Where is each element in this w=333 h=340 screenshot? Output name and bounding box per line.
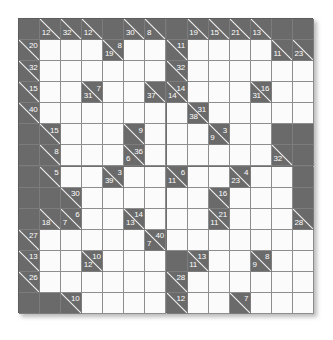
entry-cell[interactable] [145,251,166,272]
entry-cell[interactable] [124,293,145,314]
entry-cell[interactable] [145,188,166,209]
entry-cell[interactable] [124,230,145,251]
entry-cell[interactable] [103,82,124,103]
entry-cell[interactable] [124,272,145,293]
entry-cell[interactable] [188,124,209,145]
entry-cell[interactable] [145,103,166,124]
entry-cell[interactable] [103,209,124,230]
entry-cell[interactable] [145,40,166,61]
entry-cell[interactable] [209,145,230,166]
entry-cell[interactable] [103,251,124,272]
entry-cell[interactable] [293,103,314,124]
entry-cell[interactable] [251,61,272,82]
entry-cell[interactable] [230,209,251,230]
entry-cell[interactable] [82,167,103,188]
entry-cell[interactable] [251,272,272,293]
entry-cell[interactable] [272,251,293,272]
entry-cell[interactable] [124,167,145,188]
entry-cell[interactable] [40,82,61,103]
entry-cell[interactable] [188,272,209,293]
entry-cell[interactable] [188,40,209,61]
entry-cell[interactable] [103,103,124,124]
entry-cell[interactable] [103,124,124,145]
entry-cell[interactable] [188,145,209,166]
entry-cell[interactable] [230,188,251,209]
entry-cell[interactable] [61,40,82,61]
entry-cell[interactable] [145,293,166,314]
entry-cell[interactable] [82,103,103,124]
entry-cell[interactable] [209,167,230,188]
entry-cell[interactable] [124,251,145,272]
entry-cell[interactable] [61,61,82,82]
entry-cell[interactable] [124,61,145,82]
entry-cell[interactable] [82,188,103,209]
entry-cell[interactable] [61,103,82,124]
entry-cell[interactable] [167,188,188,209]
entry-cell[interactable] [209,61,230,82]
entry-cell[interactable] [230,145,251,166]
entry-cell[interactable] [61,124,82,145]
entry-cell[interactable] [251,40,272,61]
entry-cell[interactable] [272,82,293,103]
entry-cell[interactable] [61,230,82,251]
entry-cell[interactable] [209,230,230,251]
entry-cell[interactable] [251,145,272,166]
entry-cell[interactable] [82,61,103,82]
entry-cell[interactable] [167,103,188,124]
entry-cell[interactable] [167,124,188,145]
entry-cell[interactable] [230,251,251,272]
entry-cell[interactable] [40,40,61,61]
entry-cell[interactable] [272,61,293,82]
entry-cell[interactable] [293,61,314,82]
entry-cell[interactable] [167,230,188,251]
entry-cell[interactable] [145,272,166,293]
entry-cell[interactable] [251,103,272,124]
entry-cell[interactable] [145,124,166,145]
entry-cell[interactable] [230,103,251,124]
entry-cell[interactable] [103,293,124,314]
entry-cell[interactable] [251,293,272,314]
entry-cell[interactable] [251,230,272,251]
entry-cell[interactable] [188,82,209,103]
entry-cell[interactable] [61,251,82,272]
entry-cell[interactable] [82,124,103,145]
entry-cell[interactable] [209,272,230,293]
entry-cell[interactable] [61,82,82,103]
entry-cell[interactable] [167,145,188,166]
entry-cell[interactable] [251,188,272,209]
entry-cell[interactable] [145,167,166,188]
entry-cell[interactable] [230,82,251,103]
entry-cell[interactable] [209,40,230,61]
entry-cell[interactable] [82,209,103,230]
entry-cell[interactable] [103,230,124,251]
entry-cell[interactable] [40,61,61,82]
entry-cell[interactable] [167,209,188,230]
entry-cell[interactable] [209,82,230,103]
entry-cell[interactable] [230,272,251,293]
entry-cell[interactable] [293,230,314,251]
entry-cell[interactable] [40,103,61,124]
entry-cell[interactable] [272,272,293,293]
entry-cell[interactable] [61,145,82,166]
entry-cell[interactable] [209,103,230,124]
entry-cell[interactable] [188,209,209,230]
entry-cell[interactable] [82,230,103,251]
entry-cell[interactable] [124,40,145,61]
entry-cell[interactable] [251,209,272,230]
entry-cell[interactable] [188,188,209,209]
entry-cell[interactable] [293,82,314,103]
entry-cell[interactable] [272,188,293,209]
entry-cell[interactable] [272,230,293,251]
entry-cell[interactable] [188,61,209,82]
entry-cell[interactable] [61,272,82,293]
entry-cell[interactable] [124,188,145,209]
entry-cell[interactable] [209,293,230,314]
entry-cell[interactable] [82,40,103,61]
entry-cell[interactable] [82,293,103,314]
entry-cell[interactable] [230,61,251,82]
entry-cell[interactable] [40,230,61,251]
entry-cell[interactable] [40,272,61,293]
entry-cell[interactable] [61,167,82,188]
entry-cell[interactable] [272,209,293,230]
kakuro-grid[interactable]: 1232123081915211320819111123323215731371… [18,18,313,313]
